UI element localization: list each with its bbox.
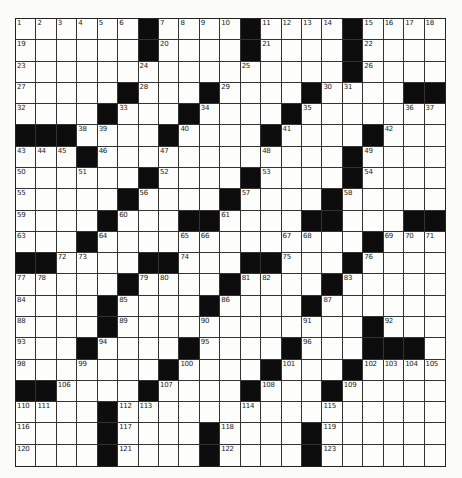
grid-cell[interactable] bbox=[343, 211, 363, 232]
grid-cell[interactable] bbox=[282, 62, 302, 83]
grid-cell[interactable] bbox=[159, 189, 179, 210]
grid-cell[interactable] bbox=[384, 296, 404, 317]
grid-cell[interactable]: 118 bbox=[220, 423, 240, 444]
grid-cell[interactable]: 81 bbox=[241, 274, 261, 295]
grid-cell[interactable] bbox=[404, 317, 424, 338]
grid-cell[interactable]: 88 bbox=[16, 317, 36, 338]
grid-cell[interactable] bbox=[118, 168, 138, 189]
grid-cell[interactable]: 111 bbox=[36, 402, 56, 423]
grid-cell[interactable] bbox=[363, 211, 383, 232]
grid-cell[interactable] bbox=[282, 402, 302, 423]
grid-cell[interactable] bbox=[302, 147, 322, 168]
grid-cell[interactable] bbox=[220, 317, 240, 338]
grid-cell[interactable] bbox=[118, 338, 138, 359]
grid-cell[interactable] bbox=[282, 296, 302, 317]
grid-cell[interactable] bbox=[36, 168, 56, 189]
grid-cell[interactable]: 112 bbox=[118, 402, 138, 423]
grid-cell[interactable]: 66 bbox=[200, 232, 220, 253]
grid-cell[interactable] bbox=[36, 104, 56, 125]
grid-cell[interactable] bbox=[302, 402, 322, 423]
grid-cell[interactable]: 95 bbox=[200, 338, 220, 359]
grid-cell[interactable] bbox=[159, 423, 179, 444]
grid-cell[interactable] bbox=[241, 338, 261, 359]
grid-cell[interactable] bbox=[118, 232, 138, 253]
grid-cell[interactable] bbox=[404, 62, 424, 83]
grid-cell[interactable]: 20 bbox=[159, 40, 179, 61]
grid-cell[interactable]: 47 bbox=[159, 147, 179, 168]
grid-cell[interactable] bbox=[282, 445, 302, 466]
grid-cell[interactable]: 23 bbox=[16, 62, 36, 83]
grid-cell[interactable]: 85 bbox=[118, 296, 138, 317]
grid-cell[interactable] bbox=[363, 296, 383, 317]
grid-cell[interactable] bbox=[343, 445, 363, 466]
grid-cell[interactable] bbox=[57, 423, 77, 444]
grid-cell[interactable] bbox=[302, 381, 322, 402]
grid-cell[interactable] bbox=[425, 317, 445, 338]
grid-cell[interactable] bbox=[425, 445, 445, 466]
grid-cell[interactable] bbox=[77, 423, 97, 444]
grid-cell[interactable] bbox=[302, 62, 322, 83]
grid-cell[interactable] bbox=[179, 296, 199, 317]
grid-cell[interactable] bbox=[220, 125, 240, 146]
grid-cell[interactable] bbox=[220, 402, 240, 423]
grid-cell[interactable]: 43 bbox=[16, 147, 36, 168]
grid-cell[interactable] bbox=[57, 360, 77, 381]
grid-cell[interactable] bbox=[363, 104, 383, 125]
grid-cell[interactable]: 75 bbox=[282, 253, 302, 274]
grid-cell[interactable]: 32 bbox=[16, 104, 36, 125]
grid-cell[interactable]: 34 bbox=[200, 104, 220, 125]
grid-cell[interactable] bbox=[159, 104, 179, 125]
grid-cell[interactable]: 72 bbox=[57, 253, 77, 274]
grid-cell[interactable] bbox=[384, 168, 404, 189]
grid-cell[interactable]: 70 bbox=[404, 232, 424, 253]
grid-cell[interactable]: 5 bbox=[98, 19, 118, 40]
grid-cell[interactable]: 77 bbox=[16, 274, 36, 295]
grid-cell[interactable] bbox=[139, 211, 159, 232]
grid-cell[interactable] bbox=[36, 62, 56, 83]
grid-cell[interactable] bbox=[77, 189, 97, 210]
grid-cell[interactable] bbox=[179, 189, 199, 210]
grid-cell[interactable]: 113 bbox=[139, 402, 159, 423]
grid-cell[interactable] bbox=[220, 62, 240, 83]
grid-cell[interactable] bbox=[139, 147, 159, 168]
grid-cell[interactable] bbox=[200, 62, 220, 83]
grid-cell[interactable] bbox=[77, 317, 97, 338]
grid-cell[interactable] bbox=[98, 168, 118, 189]
grid-cell[interactable]: 19 bbox=[16, 40, 36, 61]
grid-cell[interactable]: 119 bbox=[322, 423, 342, 444]
grid-cell[interactable]: 61 bbox=[220, 211, 240, 232]
grid-cell[interactable] bbox=[404, 168, 424, 189]
grid-cell[interactable]: 11 bbox=[261, 19, 281, 40]
grid-cell[interactable] bbox=[98, 189, 118, 210]
grid-cell[interactable] bbox=[179, 423, 199, 444]
grid-cell[interactable] bbox=[200, 253, 220, 274]
grid-cell[interactable] bbox=[77, 445, 97, 466]
grid-cell[interactable]: 9 bbox=[200, 19, 220, 40]
grid-cell[interactable] bbox=[363, 381, 383, 402]
grid-cell[interactable] bbox=[425, 40, 445, 61]
grid-cell[interactable] bbox=[200, 189, 220, 210]
grid-cell[interactable] bbox=[98, 40, 118, 61]
grid-cell[interactable]: 78 bbox=[36, 274, 56, 295]
grid-cell[interactable] bbox=[384, 402, 404, 423]
grid-cell[interactable] bbox=[220, 40, 240, 61]
grid-cell[interactable] bbox=[241, 423, 261, 444]
grid-cell[interactable] bbox=[384, 381, 404, 402]
grid-cell[interactable] bbox=[282, 83, 302, 104]
grid-cell[interactable] bbox=[343, 317, 363, 338]
grid-cell[interactable] bbox=[302, 253, 322, 274]
grid-cell[interactable] bbox=[425, 381, 445, 402]
grid-cell[interactable]: 7 bbox=[159, 19, 179, 40]
grid-cell[interactable]: 84 bbox=[16, 296, 36, 317]
grid-cell[interactable] bbox=[57, 40, 77, 61]
grid-cell[interactable] bbox=[322, 317, 342, 338]
grid-cell[interactable] bbox=[241, 445, 261, 466]
grid-cell[interactable] bbox=[98, 253, 118, 274]
grid-cell[interactable] bbox=[241, 147, 261, 168]
grid-cell[interactable] bbox=[384, 147, 404, 168]
grid-cell[interactable] bbox=[241, 232, 261, 253]
grid-cell[interactable] bbox=[139, 445, 159, 466]
grid-cell[interactable] bbox=[261, 296, 281, 317]
grid-cell[interactable] bbox=[139, 125, 159, 146]
grid-cell[interactable] bbox=[200, 360, 220, 381]
